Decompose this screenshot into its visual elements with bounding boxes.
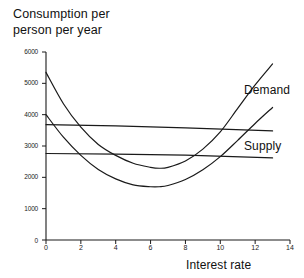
chart-series-supply-upper: [46, 125, 273, 131]
chart-series-demand-lower: [46, 107, 273, 186]
chart-x-tick-label: 4: [108, 244, 124, 251]
chart-series-label-demand: Demand: [244, 83, 290, 97]
chart-container: Consumption perperson per year 010002000…: [0, 0, 304, 278]
chart-x-tick-label: 8: [177, 244, 193, 251]
chart-x-tick-label: 2: [73, 244, 89, 251]
chart-series-demand: [46, 64, 273, 168]
chart-y-tick-label: 0: [12, 237, 38, 244]
chart-x-tick-label: 0: [38, 244, 54, 251]
chart-x-tick-label: 14: [282, 244, 298, 251]
chart-y-tick-label: 6000: [12, 48, 38, 55]
chart-y-tick-label: 4000: [12, 111, 38, 118]
chart-y-tick-label: 3000: [12, 142, 38, 149]
chart-axis-title-y: Consumption perperson per year: [13, 6, 110, 38]
chart-y-tick-label: 1000: [12, 205, 38, 212]
chart-y-tick-label: 2000: [12, 173, 38, 180]
chart-x-tick-label: 10: [212, 244, 228, 251]
chart-x-tick-label: 6: [143, 244, 159, 251]
chart-axis-title-y-line2: person per year: [13, 23, 102, 37]
chart-axis-label-x: Interest rate: [186, 258, 251, 272]
chart-y-tick-label: 5000: [12, 79, 38, 86]
chart-y-ticks: [42, 52, 46, 240]
chart-series-label-supply: Supply: [244, 139, 281, 153]
chart-x-tick-label: 12: [247, 244, 263, 251]
chart-axis-title-y-line1: Consumption per: [13, 7, 110, 21]
chart-series-lines: [46, 64, 273, 187]
chart-series-supply: [46, 154, 273, 158]
